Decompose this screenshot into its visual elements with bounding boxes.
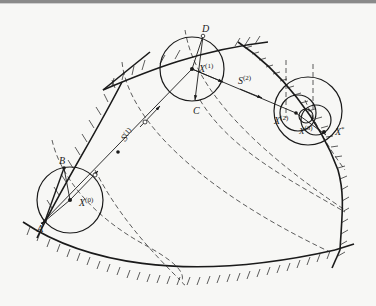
labels: A B C D X(0) X(1) X(2) X(3) X* S(1) S(2): [36, 23, 345, 234]
diagram-canvas: A B C D X(0) X(1) X(2) X(3) X* S(1) S(2): [0, 0, 376, 306]
label-C: C: [193, 105, 200, 116]
hatch-right: [245, 46, 349, 256]
hatch-bottom: [27, 227, 330, 285]
label-s2: S(2): [238, 74, 252, 86]
point-xstar: [322, 130, 326, 134]
contour-3: [185, 30, 345, 210]
constraint-top-short: [103, 52, 150, 90]
label-xstar: X*: [334, 125, 345, 137]
constraint-top: [103, 42, 268, 90]
constraint-bottom: [23, 222, 335, 267]
points: [43, 34, 326, 223]
point-s1-mid: [116, 150, 120, 154]
constraint-corner: [335, 244, 354, 250]
constraint-corner-2: [332, 250, 340, 268]
point-A: [43, 219, 47, 223]
label-D: D: [201, 23, 210, 34]
contour-1: [52, 140, 185, 285]
open-point-D: [201, 34, 205, 38]
line-x1-s2-arrow: [192, 69, 223, 82]
line-x2-s2-arrow: [240, 89, 262, 98]
label-B: B: [59, 155, 65, 166]
open-point-2: [143, 120, 147, 124]
point-x0: [68, 198, 72, 202]
point-x1: [190, 67, 194, 71]
hatch-left: [40, 80, 115, 222]
search-path: [42, 36, 326, 223]
contour-2: [122, 62, 330, 252]
constraint-right: [238, 42, 342, 250]
label-x1: X(1): [198, 62, 214, 74]
label-s1: S(1): [118, 126, 135, 144]
constraints: [23, 42, 354, 268]
label-x2: X(2): [273, 114, 289, 126]
open-point-1: [93, 173, 97, 177]
label-A: A: [36, 223, 44, 234]
point-x2: [294, 111, 298, 115]
point-B: [62, 166, 66, 170]
label-x0: X(0): [78, 196, 94, 208]
